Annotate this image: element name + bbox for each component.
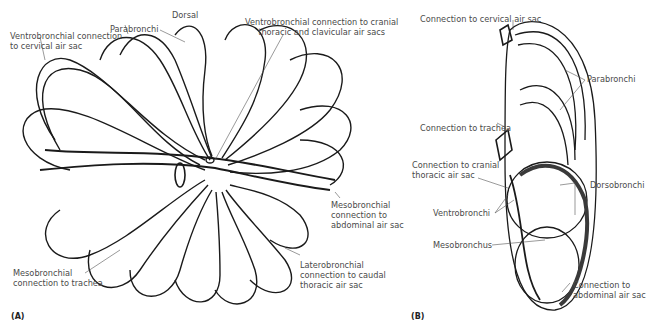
label-laterobronchial-caudal: Laterobronchial connection to caudal tho…	[300, 260, 386, 290]
leader-lines	[40, 20, 585, 292]
label-dorsal: Dorsal	[172, 10, 198, 20]
label-parabronchi-b: Parabronchi	[587, 74, 636, 84]
label-ventrobronchial-cervical: Ventrobronchial connection to cervical a…	[10, 31, 122, 51]
label-mesobronchus: Mesobronchus	[433, 240, 492, 250]
label-connection-cranial-thoracic: Connection to cranial thoracic air sac	[412, 160, 499, 180]
label-ventrobronchi: Ventrobronchi	[433, 208, 490, 218]
label-ventrobronchial-cranial: Ventrobronchial connection to cranial th…	[245, 17, 398, 37]
label-mesobronchial-trachea: Mesobronchial connection to trachea	[13, 268, 103, 288]
label-connection-cervical: Connection to cervical air sac	[420, 14, 541, 24]
label-mesobronchial-abdominal: Mesobronchial connection to abdominal ai…	[331, 200, 404, 230]
label-connection-abdominal: Connection to abdominal air sac	[573, 280, 646, 300]
label-dorsobronchi: Dorsobronchi	[590, 180, 645, 190]
label-connection-trachea: Connection to trachea	[420, 123, 511, 133]
panel-b-drawing	[496, 22, 596, 311]
panel-label-b: (B)	[411, 312, 424, 321]
panel-label-a: (A)	[11, 312, 25, 321]
